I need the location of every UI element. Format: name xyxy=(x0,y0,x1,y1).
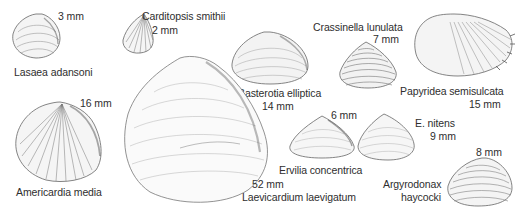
ervilia-concentrica-illustration xyxy=(288,114,358,160)
papyridea-semisulcata-size: 15 mm xyxy=(469,98,501,110)
argyrodonax-haycocki-illustration xyxy=(444,156,516,208)
carditopsis-smithii-size: 2 mm xyxy=(152,24,178,36)
e-nitens-size: 9 mm xyxy=(430,130,456,142)
argyrodonax-haycocki-name-line2: haycocki xyxy=(383,191,441,203)
carditopsis-smithii-name: Carditopsis smithii xyxy=(142,10,225,22)
lasaea-adansoni-name: Lasaea adansoni xyxy=(14,66,93,78)
lasaea-adansoni-size: 3 mm xyxy=(58,10,84,22)
crassinella-lunulata-name: Crassinella lunulata xyxy=(313,21,403,33)
lasaea-adansoni-illustration xyxy=(8,10,64,62)
e-nitens-illustration xyxy=(356,112,418,162)
americardia-media-illustration xyxy=(12,100,106,184)
argyrodonax-haycocki-name-line1: Argyrodonax xyxy=(383,178,441,190)
papyridea-semisulcata-illustration xyxy=(410,12,516,82)
laevicardium-laevigatum-illustration xyxy=(120,52,272,208)
shell-plate: 3 mm Lasaea adansoni Carditopsis smithii… xyxy=(0,0,521,217)
ervilia-concentrica-name: Ervilia concentrica xyxy=(279,164,362,176)
americardia-media-name: Americardia media xyxy=(16,186,102,198)
laevicardium-laevigatum-name: Laevicardium laevigatum xyxy=(242,191,356,203)
papyridea-semisulcata-name: Papyridea semisulcata xyxy=(400,85,504,97)
cut-off-heading: ▬▬ ▬▬▬▬▬▬▬▬▬ xyxy=(92,210,228,217)
e-nitens-name: E. nitens xyxy=(415,117,455,129)
laevicardium-laevigatum-size: 52 mm xyxy=(252,178,284,190)
crassinella-lunulata-illustration xyxy=(336,40,400,90)
